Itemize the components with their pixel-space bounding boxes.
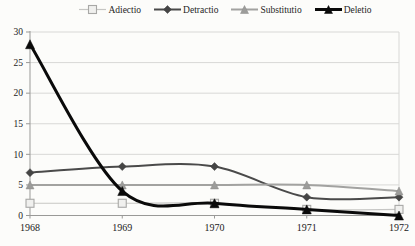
point-adiectio-1968 bbox=[26, 199, 34, 207]
point-detractio-1970 bbox=[211, 163, 219, 171]
x-axis-tick-label: 1969 bbox=[112, 222, 132, 233]
point-detractio-1971 bbox=[303, 193, 311, 201]
point-adiectio-1969 bbox=[118, 199, 126, 207]
y-axis-tick-label: 15 bbox=[14, 119, 24, 129]
line-chart: AdiectioDetractioSubstitutioDeletio 0510… bbox=[0, 0, 415, 246]
x-axis-tick-label: 1971 bbox=[297, 222, 317, 233]
x-axis-tick-label: 1968 bbox=[20, 222, 40, 233]
point-detractio-1968 bbox=[26, 169, 34, 177]
y-axis-tick-label: 0 bbox=[18, 211, 23, 221]
x-axis-tick-label: 1972 bbox=[389, 222, 409, 233]
point-detractio-1969 bbox=[118, 163, 126, 171]
y-axis-tick-label: 10 bbox=[14, 150, 24, 160]
x-axis-tick-label: 1970 bbox=[205, 222, 225, 233]
y-axis-tick-label: 5 bbox=[18, 180, 23, 190]
y-axis-tick-label: 20 bbox=[14, 88, 24, 98]
point-deletio-1968 bbox=[26, 40, 35, 49]
y-axis-tick-label: 25 bbox=[14, 58, 24, 68]
plot-area: 05101520253019681969197019711972 bbox=[0, 0, 415, 246]
series-line-deletio bbox=[30, 44, 399, 215]
y-axis-tick-label: 30 bbox=[14, 27, 24, 37]
